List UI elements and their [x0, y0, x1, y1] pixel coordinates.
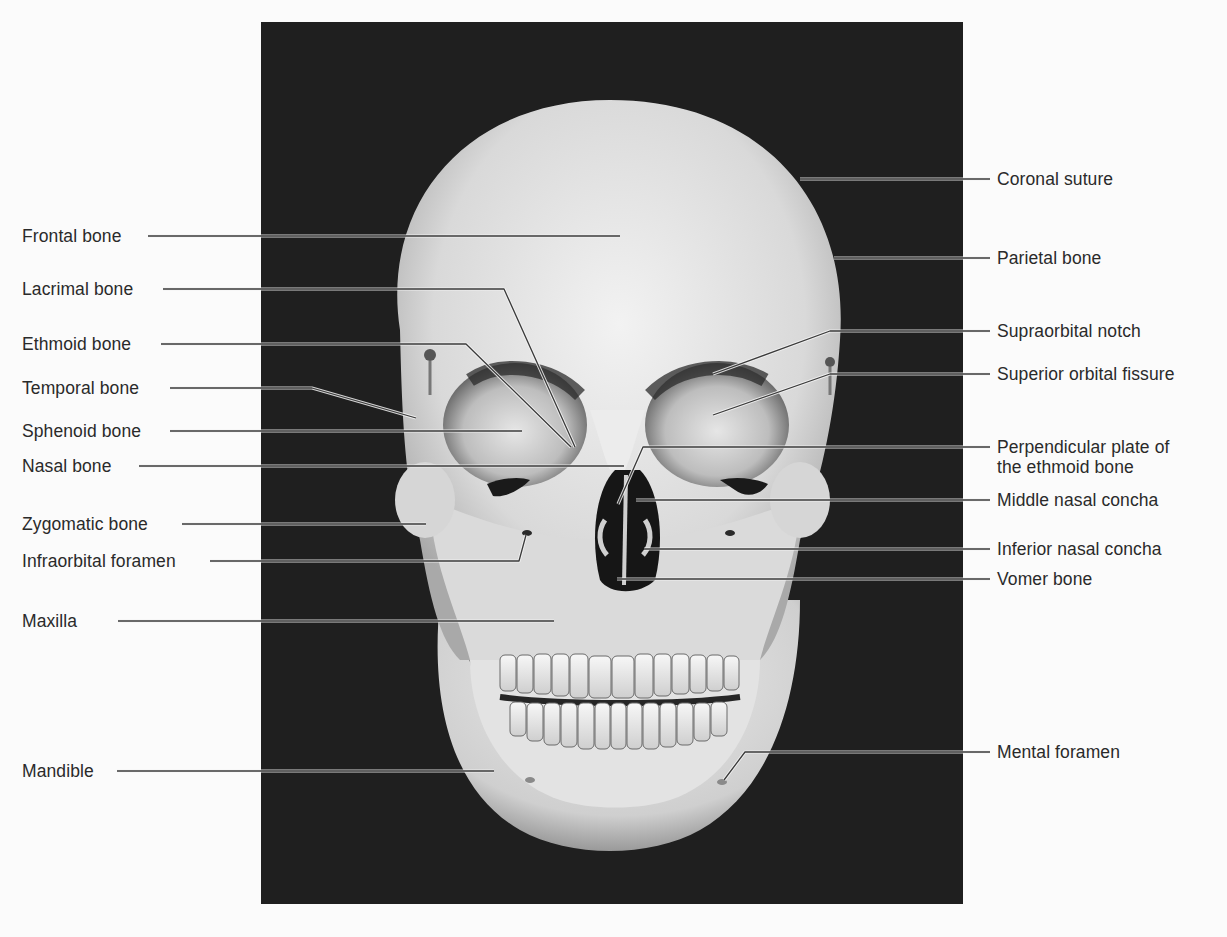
label-ethmoid-bone: Ethmoid bone [22, 334, 131, 354]
label-supraorbital-notch: Supraorbital notch [997, 321, 1141, 341]
label-maxilla: Maxilla [22, 611, 77, 631]
label-coronal-suture: Coronal suture [997, 169, 1113, 189]
label-vomer-bone: Vomer bone [997, 569, 1092, 589]
label-inferior-nasal-concha: Inferior nasal concha [997, 539, 1162, 559]
label-mandible: Mandible [22, 761, 94, 781]
label-superior-orbital-fissure: Superior orbital fissure [997, 364, 1174, 384]
label-temporal-bone: Temporal bone [22, 378, 139, 398]
skull-anterior-view-figure: Frontal bone Lacrimal bone Ethmoid bone … [0, 0, 1227, 937]
label-mental-foramen: Mental foramen [997, 742, 1120, 762]
label-zygomatic-bone: Zygomatic bone [22, 514, 148, 534]
label-lacrimal-bone: Lacrimal bone [22, 279, 133, 299]
label-infraorbital-foramen: Infraorbital foramen [22, 551, 176, 571]
label-sphenoid-bone: Sphenoid bone [22, 421, 141, 441]
label-perpendicular-plate-line2: the ethmoid bone [997, 457, 1169, 477]
label-perpendicular-plate-line1: Perpendicular plate of [997, 437, 1169, 457]
label-perpendicular-plate: Perpendicular plate of the ethmoid bone [997, 437, 1169, 477]
label-nasal-bone: Nasal bone [22, 456, 112, 476]
label-parietal-bone: Parietal bone [997, 248, 1101, 268]
label-middle-nasal-concha: Middle nasal concha [997, 490, 1158, 510]
label-frontal-bone: Frontal bone [22, 226, 121, 246]
